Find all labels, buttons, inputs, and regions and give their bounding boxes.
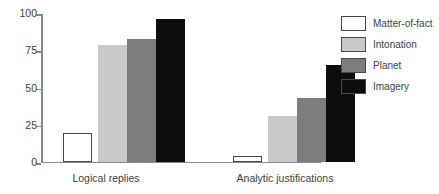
bars-layer: [41, 14, 321, 162]
bar: [268, 116, 297, 162]
legend: Matter-of-fact Intonation Planet Imagery: [341, 13, 439, 97]
legend-item-intonation: Intonation: [341, 34, 439, 54]
bar: [156, 19, 185, 161]
plot-area: 100 75 50 25 0: [41, 14, 321, 163]
y-tick-label: 50: [25, 82, 37, 95]
y-tick-label: 100: [19, 7, 37, 20]
legend-swatch-icon: [341, 16, 366, 31]
y-tick-label: 0: [31, 156, 37, 169]
legend-label: Matter-of-fact: [373, 17, 432, 30]
legend-label: Imagery: [373, 80, 409, 93]
legend-swatch-icon: [341, 37, 366, 52]
y-tick-label: 25: [25, 119, 37, 132]
bar-chart-figure: 100 75 50 25 0 Logical replies Analytic …: [0, 0, 439, 194]
x-axis-group-label-1: Logical replies: [34, 172, 178, 185]
bar: [297, 98, 326, 162]
legend-item-planet: Planet: [341, 55, 439, 75]
y-tick-label: 75: [25, 44, 37, 57]
x-axis-group-label-2: Analytic justifications: [205, 172, 365, 185]
legend-item-imagery: Imagery: [341, 76, 439, 96]
bar: [233, 156, 262, 162]
legend-swatch-icon: [341, 58, 366, 73]
legend-item-matter-of-fact: Matter-of-fact: [341, 13, 439, 33]
bar: [98, 45, 127, 162]
bar: [63, 133, 92, 161]
legend-label: Intonation: [373, 38, 417, 51]
bar: [127, 39, 156, 162]
legend-swatch-icon: [341, 79, 366, 94]
x-axis-line: [41, 162, 321, 164]
legend-label: Planet: [373, 59, 401, 72]
